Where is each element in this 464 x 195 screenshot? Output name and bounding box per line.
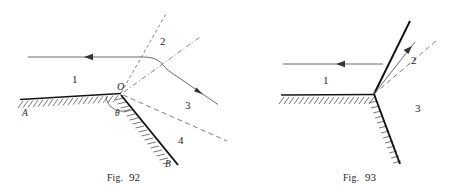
hatch-surface-horizontal-93 bbox=[279, 97, 374, 104]
fig92-caption-number: 92 bbox=[129, 171, 140, 183]
fig93-caption-word: Fig. bbox=[343, 173, 359, 183]
hatch-surface-ob bbox=[115, 98, 171, 164]
incident-ray-1-93 bbox=[283, 61, 383, 67]
figure-93: 1 2 3 Fig. 93 bbox=[279, 21, 436, 183]
fig92-corner-a-label: A bbox=[21, 108, 28, 118]
fig93-caption-number: 93 bbox=[365, 171, 377, 183]
fig92-region-3-label: 3 bbox=[185, 99, 191, 111]
fig92-angle-theta-label: θ bbox=[115, 108, 120, 118]
surface-slant-up-93 bbox=[374, 21, 410, 94]
fig93-caption: Fig. 93 bbox=[343, 171, 377, 183]
figures-svg: 1 2 3 4 O θ A B Fig. 92 bbox=[0, 0, 464, 195]
fig93-region-3-label: 3 bbox=[415, 102, 421, 114]
dashed-normal-2 bbox=[121, 12, 167, 93]
fig92-corner-b-label: B bbox=[165, 159, 171, 169]
fig93-region-2-label: 2 bbox=[411, 54, 417, 66]
reflected-ray-2-93 bbox=[374, 42, 415, 94]
fig92-region-2-label: 2 bbox=[160, 35, 166, 47]
incident-ray-1 bbox=[28, 54, 143, 60]
fig92-region-1-label: 1 bbox=[72, 73, 78, 85]
surface-slant-down-93 bbox=[374, 94, 400, 164]
surface-horizontal-93 bbox=[281, 95, 375, 96]
fig92-vertex-o-label: O bbox=[117, 81, 124, 92]
fig93-region-1-label: 1 bbox=[323, 74, 329, 86]
figure-sheet: 1 2 3 4 O θ A B Fig. 92 bbox=[0, 0, 464, 195]
refracted-ray-3 bbox=[143, 57, 218, 105]
fig92-caption-word: Fig. bbox=[107, 173, 123, 183]
fig92-caption: Fig. 92 bbox=[107, 171, 140, 183]
dashed-line-3-93 bbox=[374, 41, 436, 94]
fig92-region-4-label: 4 bbox=[178, 134, 184, 146]
surface-ob bbox=[121, 95, 178, 165]
figure-92: 1 2 3 4 O θ A B Fig. 92 bbox=[18, 12, 227, 183]
